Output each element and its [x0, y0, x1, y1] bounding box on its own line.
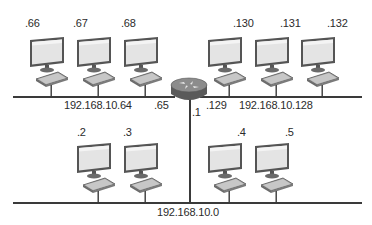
network-label-192-168-10-128: 192.168.10.128 — [239, 99, 313, 111]
host-pc — [295, 37, 341, 97]
host-label: .130 — [233, 17, 254, 29]
host-label: .132 — [327, 17, 348, 29]
host-pc — [24, 37, 70, 97]
host-label: .3 — [123, 126, 132, 138]
host-label: .131 — [280, 17, 301, 29]
segment-line-192-168-10-0 — [13, 202, 362, 204]
host-pc — [118, 143, 164, 203]
host-label: .5 — [285, 126, 294, 138]
router-uplink-line — [189, 98, 191, 203]
host-pc — [202, 143, 248, 203]
host-pc — [249, 37, 295, 97]
router-interface-label: .65 — [154, 99, 169, 111]
host-label: .2 — [77, 126, 86, 138]
host-pc — [202, 37, 248, 97]
network-label-192-168-10-0: 192.168.10.0 — [157, 206, 219, 218]
host-label: .68 — [121, 17, 136, 29]
host-pc — [71, 143, 117, 203]
host-label: .67 — [73, 17, 88, 29]
network-label-192-168-10-64: 192.168.10.64 — [64, 99, 132, 111]
host-pc — [249, 143, 295, 203]
host-pc — [71, 37, 117, 97]
host-label: .4 — [237, 126, 246, 138]
router-interface-label: .1 — [192, 106, 201, 118]
host-pc — [118, 37, 164, 97]
router-interface-label: .129 — [206, 99, 227, 111]
host-label: .66 — [25, 17, 40, 29]
